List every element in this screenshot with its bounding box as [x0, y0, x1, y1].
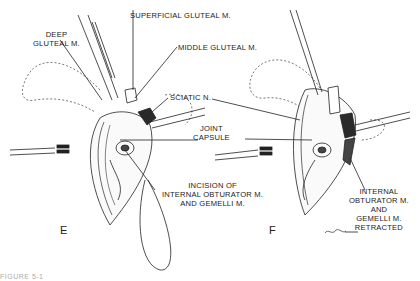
label-line: AND GEMELLI M. [162, 199, 263, 208]
panel-letter-e: E [60, 224, 67, 236]
label-joint-capsule: JOINT CAPSULE [193, 124, 230, 142]
label-line: GLUTEAL M. [33, 39, 80, 48]
label-line: GEMELLI M. [349, 214, 409, 223]
figure-canvas: DEEP GLUTEAL M. SUPERFICIAL GLUTEAL M. M… [0, 0, 420, 281]
label-line: INTERNAL OBTURATOR M. [162, 190, 263, 199]
label-line: RETRACTED [349, 223, 409, 232]
label-deep-gluteal: DEEP GLUTEAL M. [33, 30, 80, 48]
label-obturator-retracted: INTERNAL OBTURATOR M. AND GEMELLI M. RET… [349, 187, 409, 232]
label-line: JOINT [193, 124, 230, 133]
label-line: CAPSULE [193, 133, 230, 142]
label-superficial-gluteal: SUPERFICIAL GLUTEAL M. [130, 11, 231, 20]
panel-letter-f: F [269, 224, 276, 236]
label-line: DEEP [33, 30, 80, 39]
label-middle-gluteal: MIDDLE GLUTEAL M. [178, 43, 257, 52]
label-line: AND [349, 205, 409, 214]
figure-caption: FIGURE 5-1 [0, 273, 44, 280]
label-incision: INCISION OF INTERNAL OBTURATOR M. AND GE… [162, 181, 263, 208]
label-line: OBTURATOR M. [349, 196, 409, 205]
label-line: INTERNAL [349, 187, 409, 196]
label-line: INCISION OF [162, 181, 263, 190]
label-sciatic-nerve: SCIATIC N. [170, 93, 211, 102]
